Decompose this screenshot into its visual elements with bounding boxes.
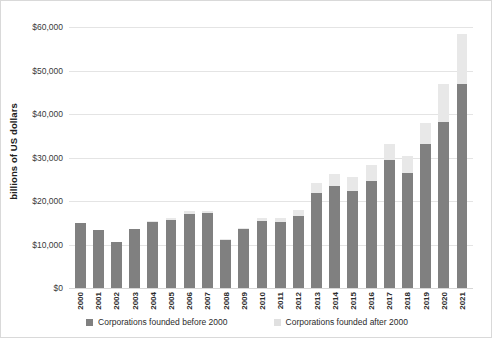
bar-segment-before-2000[interactable] <box>329 186 340 288</box>
x-tick-label: 2021 <box>458 292 467 310</box>
y-tick-label: $0 <box>54 283 63 293</box>
bar-segment-before-2000[interactable] <box>311 193 322 288</box>
legend-item[interactable]: Corporations founded before 2000 <box>86 317 227 327</box>
bar-stack[interactable] <box>166 218 177 288</box>
bar-stack[interactable] <box>202 211 213 288</box>
bars-layer <box>69 27 473 288</box>
bar-segment-after-2000[interactable] <box>311 183 322 193</box>
bar-stack[interactable] <box>384 144 395 288</box>
bar-segment-after-2000[interactable] <box>329 174 340 185</box>
y-tick-label: $60,000 <box>32 22 63 32</box>
bar-group[interactable] <box>398 27 416 288</box>
bar-stack[interactable] <box>438 84 449 288</box>
bar-stack[interactable] <box>238 228 249 288</box>
bar-group[interactable] <box>271 27 289 288</box>
bar-segment-before-2000[interactable] <box>75 223 86 288</box>
bar-group[interactable] <box>435 27 453 288</box>
bar-segment-after-2000[interactable] <box>384 144 395 161</box>
x-tick: 2001 <box>89 290 107 320</box>
bar-group[interactable] <box>107 27 125 288</box>
bar-stack[interactable] <box>402 156 413 288</box>
bar-group[interactable] <box>417 27 435 288</box>
bar-segment-after-2000[interactable] <box>366 165 377 181</box>
x-tick-label: 2018 <box>403 292 412 310</box>
bar-group[interactable] <box>344 27 362 288</box>
bar-group[interactable] <box>198 27 216 288</box>
bar-segment-before-2000[interactable] <box>275 222 286 288</box>
bar-group[interactable] <box>453 27 471 288</box>
legend-item[interactable]: Corporations founded after 2000 <box>274 317 408 327</box>
bar-group[interactable] <box>217 27 235 288</box>
bar-stack[interactable] <box>129 229 140 288</box>
bar-segment-after-2000[interactable] <box>457 34 468 84</box>
bar-group[interactable] <box>362 27 380 288</box>
bar-stack[interactable] <box>184 211 195 288</box>
bar-segment-before-2000[interactable] <box>402 173 413 288</box>
x-tick: 2007 <box>198 290 216 320</box>
x-tick: 2008 <box>217 290 235 320</box>
bar-stack[interactable] <box>111 242 122 288</box>
bar-segment-before-2000[interactable] <box>457 84 468 288</box>
x-tick: 2011 <box>271 290 289 320</box>
bar-segment-after-2000[interactable] <box>420 123 431 145</box>
bar-stack[interactable] <box>457 34 468 288</box>
bar-stack[interactable] <box>220 239 231 288</box>
x-tick-label: 2003 <box>130 292 139 310</box>
bar-segment-before-2000[interactable] <box>184 214 195 288</box>
bar-group[interactable] <box>144 27 162 288</box>
bar-stack[interactable] <box>147 221 158 288</box>
bar-group[interactable] <box>126 27 144 288</box>
bar-segment-before-2000[interactable] <box>202 213 213 288</box>
square-swatch-icon <box>274 319 281 326</box>
y-axis-title: billions of US dollars <box>3 1 23 301</box>
bar-stack[interactable] <box>293 210 304 288</box>
bar-segment-before-2000[interactable] <box>257 221 268 288</box>
bar-segment-before-2000[interactable] <box>420 144 431 288</box>
bar-group[interactable] <box>162 27 180 288</box>
bar-segment-before-2000[interactable] <box>238 229 249 288</box>
bar-segment-before-2000[interactable] <box>366 181 377 288</box>
bar-group[interactable] <box>289 27 307 288</box>
x-tick: 2010 <box>253 290 271 320</box>
x-tick-label: 2005 <box>167 292 176 310</box>
bar-stack[interactable] <box>366 165 377 288</box>
bar-stack[interactable] <box>257 218 268 288</box>
bar-segment-after-2000[interactable] <box>402 156 413 173</box>
bar-stack[interactable] <box>311 183 322 288</box>
bar-segment-before-2000[interactable] <box>129 229 140 288</box>
bar-group[interactable] <box>253 27 271 288</box>
bar-segment-before-2000[interactable] <box>220 240 231 288</box>
bar-group[interactable] <box>71 27 89 288</box>
bar-stack[interactable] <box>75 223 86 288</box>
x-tick-label: 2008 <box>221 292 230 310</box>
bar-group[interactable] <box>89 27 107 288</box>
bar-stack[interactable] <box>329 174 340 288</box>
bar-segment-after-2000[interactable] <box>438 84 449 122</box>
x-tick-label: 2012 <box>294 292 303 310</box>
bar-group[interactable] <box>380 27 398 288</box>
bar-segment-after-2000[interactable] <box>347 177 358 191</box>
bar-group[interactable] <box>180 27 198 288</box>
bar-stack[interactable] <box>420 123 431 288</box>
x-tick-label: 2009 <box>239 292 248 310</box>
bar-stack[interactable] <box>93 230 104 288</box>
bar-segment-before-2000[interactable] <box>438 122 449 288</box>
x-tick-label: 2007 <box>203 292 212 310</box>
bar-segment-before-2000[interactable] <box>111 242 122 288</box>
bar-stack[interactable] <box>347 177 358 288</box>
plot-area: $0$10,000$20,000$30,000$40,000$50,000$60… <box>69 27 473 288</box>
bar-segment-before-2000[interactable] <box>147 222 158 288</box>
bar-segment-before-2000[interactable] <box>93 230 104 288</box>
y-tick-label: $50,000 <box>32 66 63 76</box>
bar-segment-before-2000[interactable] <box>384 160 395 288</box>
bar-group[interactable] <box>235 27 253 288</box>
bar-segment-before-2000[interactable] <box>347 191 358 288</box>
x-tick: 2020 <box>435 290 453 320</box>
bar-group[interactable] <box>307 27 325 288</box>
bar-group[interactable] <box>326 27 344 288</box>
bar-segment-before-2000[interactable] <box>166 220 177 288</box>
y-tick-label: $10,000 <box>32 240 63 250</box>
bar-stack[interactable] <box>275 218 286 288</box>
bar-segment-before-2000[interactable] <box>293 216 304 288</box>
stacked-bar-chart: billions of US dollars $0$10,000$20,000$… <box>0 0 492 338</box>
